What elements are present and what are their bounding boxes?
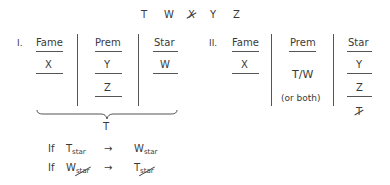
header-letter-w: W [164, 10, 174, 20]
s1-prem-heading-underline [95, 51, 122, 52]
rule-lhs-subscript: star [72, 148, 86, 156]
s2-prem-heading-underline [289, 51, 316, 52]
s2-prem-note: (or both) [281, 93, 321, 103]
s1-divider-2 [138, 34, 139, 106]
s1-prem-entry-z: Z [104, 83, 111, 93]
header-letter-y: Y [210, 10, 216, 20]
s1-prem-entry-underline [95, 96, 122, 97]
s2-star-entry-underline [347, 73, 372, 74]
s1-prem-entry-y: Y [104, 60, 110, 70]
rule-lhs-letter: W [66, 162, 76, 173]
s1-star-heading: Star [154, 38, 175, 48]
s2-star-entry-underline [347, 96, 372, 97]
s2-prem-entry-t-or-w: T/W [292, 70, 313, 80]
s1-fame-heading-underline [36, 51, 63, 52]
rule-arrow: → [104, 163, 112, 173]
s2-fame-entry-x: X [241, 60, 248, 70]
s1-star-entry-underline [153, 73, 178, 74]
header-letter-t: T [141, 10, 147, 20]
rule-if: If [48, 163, 54, 173]
rule-rhs-subscript-crossed: star [140, 166, 154, 176]
s2-divider-2 [333, 34, 334, 106]
s2-fame-heading: Fame [232, 38, 259, 48]
rule-lhs-subscript-crossed: star [76, 166, 90, 176]
rule-rhs-subscript: star [144, 148, 158, 156]
s1-fame-entry-x: X [45, 60, 52, 70]
s2-fame-heading-underline [232, 51, 259, 52]
s1-brace-label: T [103, 122, 109, 132]
s1-divider-1 [77, 34, 78, 106]
s1-star-entry-w: W [160, 60, 170, 70]
s2-star-entry-t-crossed: T [356, 107, 362, 117]
section-1-numeral: I. [17, 38, 23, 48]
header-letter-x-crossed: X [188, 10, 195, 20]
section-2-numeral: II. [209, 38, 217, 48]
crossed-letter: X [188, 10, 195, 20]
rule-lhs: Wstar [66, 163, 89, 174]
s2-star-heading-underline [347, 51, 372, 52]
s2-fame-entry-underline [232, 73, 259, 74]
s2-star-heading: Star [348, 38, 369, 48]
s2-divider-1 [271, 34, 272, 106]
s2-prem-heading: Prem [290, 38, 316, 48]
s2-star-entry-z: Z [356, 83, 363, 93]
s2-star-entry-y: Y [356, 60, 362, 70]
s1-star-heading-underline [153, 51, 178, 52]
s1-fame-heading: Fame [36, 38, 63, 48]
s1-prem-heading: Prem [95, 38, 121, 48]
rule-rhs: Tstar [134, 163, 154, 174]
crossed-letter: T [356, 107, 362, 117]
rule-rhs-letter: W [134, 143, 144, 154]
rule-arrow: → [104, 144, 112, 154]
rule-if: If [48, 144, 54, 154]
s1-prem-entry-underline [95, 73, 122, 74]
header-letter-z: Z [233, 10, 240, 20]
s1-fame-entry-underline [36, 73, 63, 74]
rule-rhs: Wstar [134, 144, 157, 155]
rule-lhs: Tstar [66, 144, 86, 155]
